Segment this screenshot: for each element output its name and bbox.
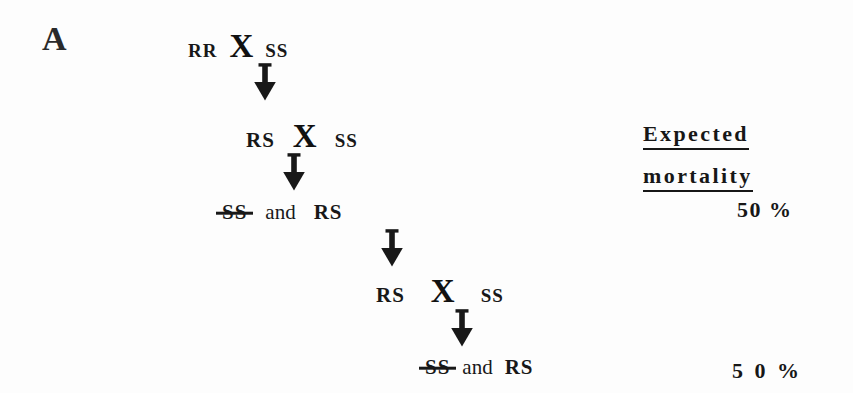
conjunction-label: and [265,202,295,223]
parent-genotype-right: SS [335,131,358,150]
down-arrow-icon [379,228,405,268]
mortality-value-generation-3: 50 % [737,199,793,221]
parent-genotype-right: SS [481,286,504,305]
down-arrow-icon [252,62,278,102]
cross-row-generation-1: RR X SS [188,30,288,63]
cross-row-generation-5-offspring: SS and RS [425,357,534,378]
parent-genotype-left: RS [376,285,405,306]
dead-genotype: SS [222,202,247,223]
live-genotype: RS [314,202,343,223]
mortality-value-generation-5: 5 0 % [732,360,802,382]
parent-genotype-left: RR [188,41,217,60]
dead-genotype: SS [425,357,450,378]
cross-row-generation-2: RS X SS [246,120,358,153]
cross-symbol-icon: X [293,120,317,153]
cross-row-generation-3-offspring: SS and RS [222,202,343,223]
parent-genotype-right: SS [265,41,288,60]
expected-mortality-heading-line-1: Expected [643,123,749,150]
down-arrow-icon [281,152,307,192]
live-genotype: RS [505,357,534,378]
cross-symbol-icon: X [229,30,253,63]
down-arrow-icon [449,308,475,348]
cross-row-generation-4: RS X SS [376,275,504,308]
parent-genotype-left: RS [246,130,275,151]
conjunction-label: and [462,357,492,378]
expected-mortality-heading-line-2: mortality [643,165,753,192]
cross-symbol-icon: X [431,275,455,308]
figure-panel-a: A RR X SS RS X SS SS and [0,0,853,393]
panel-label: A [42,22,67,56]
